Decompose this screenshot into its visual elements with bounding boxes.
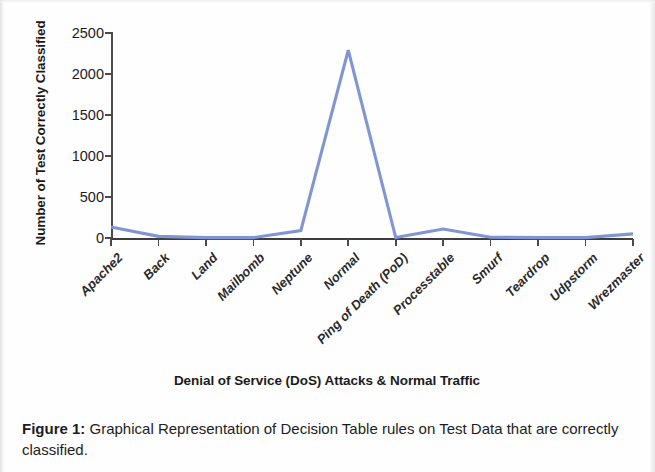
y-axis-tick-mark xyxy=(105,196,112,198)
x-axis-tick-mark xyxy=(158,239,160,246)
x-axis-category-label-text: Normal xyxy=(321,250,363,292)
y-axis-tick-mark xyxy=(105,155,112,157)
x-axis-category-label-text: Back xyxy=(140,250,173,283)
x-axis-category-label-text: Land xyxy=(188,250,221,283)
y-axis-tick-label: 500 xyxy=(80,190,104,205)
x-axis-tick-mark xyxy=(205,239,207,246)
line-chart: Number of Test Correctly Classified 0500… xyxy=(4,3,650,401)
y-axis-tick-labels: 05001000150020002500 xyxy=(46,3,104,253)
y-axis-tick-label: 2500 xyxy=(72,26,104,41)
x-axis-category-label-text: Apache2 xyxy=(77,250,126,299)
x-axis-tick-mark xyxy=(395,239,397,246)
x-axis-tick-mark xyxy=(347,239,349,246)
figure-caption-label: Figure 1: xyxy=(22,420,85,437)
x-axis-category-label-text: Teardrop xyxy=(503,250,553,300)
x-axis-title: Denial of Service (DoS) Attacks & Normal… xyxy=(4,373,650,388)
y-axis-tick-label: 2000 xyxy=(72,67,104,82)
x-axis-tick-mark xyxy=(585,239,587,246)
figure-page: Number of Test Correctly Classified 0500… xyxy=(0,0,655,472)
series-line xyxy=(111,28,633,243)
x-axis-tick-mark xyxy=(490,239,492,246)
y-axis-tick-mark xyxy=(105,114,112,116)
x-axis-tick-mark xyxy=(442,239,444,246)
figure-caption: Figure 1: Graphical Representation of De… xyxy=(22,418,634,461)
x-axis-category-labels: Apache2BackLandMailbombNeptuneNormalPing… xyxy=(111,248,633,358)
x-axis-tick-mark xyxy=(632,239,634,246)
figure-panel: Number of Test Correctly Classified 0500… xyxy=(4,3,650,401)
x-axis-tick-mark xyxy=(300,239,302,246)
y-axis-tick-mark xyxy=(105,32,112,34)
x-axis-category-label-text: Neptune xyxy=(268,250,315,297)
y-axis-tick-mark xyxy=(105,73,112,75)
x-axis-category-label-text: Smurf xyxy=(468,250,505,287)
y-axis-tick-label: 1000 xyxy=(72,149,104,164)
figure-caption-text: Graphical Representation of Decision Tab… xyxy=(22,420,618,458)
y-axis-tick-label: 0 xyxy=(96,231,104,246)
y-axis-tick-label: 1500 xyxy=(72,108,104,123)
x-axis-tick-mark xyxy=(253,239,255,246)
x-axis-tick-mark xyxy=(110,239,112,246)
data-series-1 xyxy=(111,50,633,237)
x-axis-tick-mark xyxy=(537,239,539,246)
x-axis-category-label-text: Ping of Death (PoD) xyxy=(313,250,410,347)
